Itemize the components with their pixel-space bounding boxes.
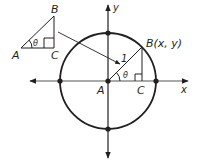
label-small-theta: θ [33,39,38,48]
label-x-axis: x [180,84,187,95]
label-center-a: A [96,84,105,97]
label-foot-c: C [137,84,145,97]
label-small-a: A [11,49,20,62]
label-small-c: C [51,49,59,62]
label-small-b: B [51,3,59,16]
label-point-b: B(x, y) [146,37,182,50]
label-radius: 1 [121,53,127,64]
label-theta: θ [123,71,128,80]
label-y-axis: y [112,2,120,13]
unit-circle-diagram: B A C θ y x B(x, y) 1 θ A C [0,0,197,163]
